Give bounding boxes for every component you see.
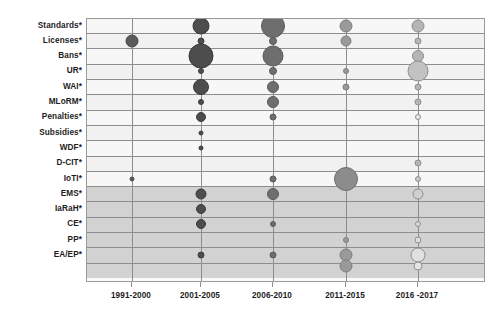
y-axis-label: PP* xyxy=(68,234,82,243)
bubble-point xyxy=(267,81,279,93)
y-axis-label: WAI* xyxy=(63,81,82,90)
y-axis-label: Licenses* xyxy=(43,35,82,44)
bubble-point xyxy=(267,96,279,108)
bubble-point xyxy=(270,114,277,121)
x-axis-tick xyxy=(345,282,346,287)
bubble-point xyxy=(340,19,353,32)
x-axis-label: 2011-2015 xyxy=(325,291,365,300)
y-axis-label: Bans* xyxy=(58,51,82,60)
x-axis-tick xyxy=(417,282,418,287)
gridline-horizontal xyxy=(87,217,484,218)
y-axis-label: WDF* xyxy=(60,142,82,151)
y-axis-label: IoTI* xyxy=(64,173,82,182)
bubble-point xyxy=(126,34,139,47)
x-axis-tick xyxy=(272,282,273,287)
bubble-chart: Standards*Licenses*Bans*UR*WAI*MLoRM*Pen… xyxy=(0,0,500,323)
row-band xyxy=(87,110,484,125)
bubble-point xyxy=(269,37,277,45)
bubble-point xyxy=(198,252,205,259)
gridline-horizontal xyxy=(87,247,484,248)
bubble-point xyxy=(267,188,279,200)
x-axis-label: 2001-2005 xyxy=(180,291,220,300)
bubble-point xyxy=(343,68,349,74)
row-band xyxy=(87,171,484,186)
bubble-point xyxy=(270,221,276,227)
bubble-point xyxy=(270,252,277,259)
y-axis-label: Penalties* xyxy=(42,112,82,121)
bubble-point xyxy=(343,237,349,243)
bubble-point xyxy=(269,67,277,75)
bubble-point xyxy=(343,83,350,90)
x-axis-label: 1991-2000 xyxy=(111,291,151,300)
gridline-horizontal xyxy=(87,186,484,187)
y-axis-label: UR* xyxy=(67,66,82,75)
bubble-point xyxy=(270,175,277,182)
bubble-point xyxy=(263,46,284,67)
y-axis-label: IaRaH* xyxy=(55,204,82,213)
y-axis-label: CE* xyxy=(67,219,82,228)
bubble-point xyxy=(193,79,209,95)
x-axis-tick xyxy=(200,282,201,287)
bubble-point xyxy=(130,176,135,181)
bubble-point xyxy=(415,176,421,182)
x-axis-label: 2006-2010 xyxy=(252,291,292,300)
x-axis-label: 2016 -2017 xyxy=(396,291,438,300)
row-band xyxy=(87,94,484,109)
bubble-point xyxy=(198,68,204,74)
row-band xyxy=(87,33,484,48)
row-band xyxy=(87,48,484,63)
gridline-horizontal xyxy=(87,171,484,172)
gridline-horizontal xyxy=(87,18,484,19)
row-band xyxy=(87,140,484,155)
gridline-horizontal xyxy=(87,125,484,126)
bubble-point xyxy=(196,188,207,199)
row-band xyxy=(87,217,484,232)
bubble-point xyxy=(415,37,422,44)
gridline-horizontal xyxy=(87,140,484,141)
bubble-point xyxy=(415,99,422,106)
y-axis-label: D-CIT* xyxy=(56,158,82,167)
row-band xyxy=(87,201,484,216)
gridline-vertical xyxy=(132,19,133,281)
y-axis-label: MLoRM* xyxy=(49,97,82,106)
bubble-point xyxy=(408,61,429,82)
gridline-horizontal xyxy=(87,232,484,233)
row-band xyxy=(87,232,484,247)
bubble-point xyxy=(415,160,422,167)
row-band xyxy=(87,263,484,278)
y-axis-label: EA/EP* xyxy=(54,250,82,259)
plot-area xyxy=(86,18,485,282)
bubble-point xyxy=(413,188,424,199)
bubble-point xyxy=(199,145,204,150)
bubble-point xyxy=(196,204,206,214)
bubble-point xyxy=(415,236,422,243)
bubble-point xyxy=(415,83,422,90)
bubble-point xyxy=(414,262,423,271)
row-band xyxy=(87,156,484,171)
bubble-point xyxy=(340,260,353,273)
bubble-point xyxy=(415,114,421,120)
bubble-point xyxy=(411,248,426,263)
x-axis-tick xyxy=(131,282,132,287)
row-band xyxy=(87,186,484,201)
gridline-horizontal xyxy=(87,94,484,95)
bubble-point xyxy=(415,221,421,227)
bubble-point xyxy=(199,130,204,135)
row-band xyxy=(87,79,484,94)
bubble-point xyxy=(196,219,206,229)
bubble-point xyxy=(198,99,204,105)
gridline-horizontal xyxy=(87,156,484,157)
gridline-horizontal xyxy=(87,263,484,264)
bubble-point xyxy=(412,19,425,32)
bubble-point xyxy=(341,35,352,46)
bubble-point xyxy=(196,112,206,122)
y-axis-label: Standards* xyxy=(38,20,82,29)
gridline-horizontal xyxy=(87,48,484,49)
bubble-point xyxy=(334,167,358,191)
row-band xyxy=(87,125,484,140)
y-axis-label: EMS* xyxy=(61,188,82,197)
gridline-horizontal xyxy=(87,33,484,34)
y-axis-label: Subsidies* xyxy=(39,127,82,136)
gridline-horizontal xyxy=(87,110,484,111)
gridline-horizontal xyxy=(87,201,484,202)
